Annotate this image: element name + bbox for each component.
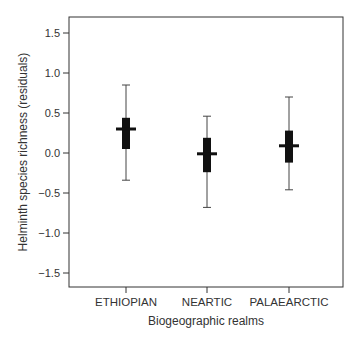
y-tick-label: −1.5 <box>38 267 60 279</box>
iqr-box <box>122 118 130 149</box>
x-tick-label: NEARTIC <box>182 296 232 308</box>
y-tick-label: 0.5 <box>45 107 60 119</box>
y-tick-label: 1.5 <box>45 27 60 39</box>
box-ethiopian <box>116 85 136 180</box>
y-axis-label: Helminth species richness (residuals) <box>16 53 30 252</box>
x-tick-label: ETHIOPIAN <box>95 296 157 308</box>
x-axis-label: Biogeographic realms <box>148 314 264 328</box>
y-axis: 1.51.00.50.0−0.5−1.0−1.5 <box>38 27 69 279</box>
y-tick-label: −0.5 <box>38 187 60 199</box>
y-tick-label: 0.0 <box>45 147 60 159</box>
x-tick-label: PALAEARCTIC <box>249 296 328 308</box>
x-axis: ETHIOPIANNEARTICPALAEARCTIC <box>95 287 329 308</box>
box-series <box>116 85 299 207</box>
box-neartic <box>197 116 217 207</box>
y-tick-label: −1.0 <box>38 227 60 239</box>
box-palaearctic <box>279 97 299 190</box>
y-tick-label: 1.0 <box>45 67 60 79</box>
box-plot-chart: 1.51.00.50.0−0.5−1.0−1.5 ETHIOPIANNEARTI… <box>0 0 362 343</box>
